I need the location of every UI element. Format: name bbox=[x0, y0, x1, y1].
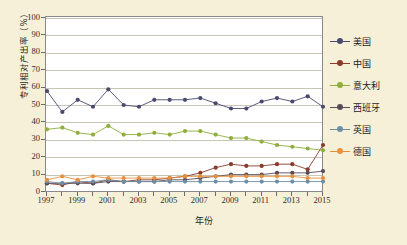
x-axis-title: 年份 bbox=[0, 214, 407, 227]
data-point bbox=[275, 174, 279, 178]
legend-item-美国[interactable]: 美国 bbox=[330, 30, 404, 52]
legend-item-中国[interactable]: 中国 bbox=[330, 52, 404, 74]
data-point bbox=[229, 106, 233, 110]
data-point bbox=[290, 145, 294, 149]
data-point bbox=[152, 98, 156, 102]
legend-swatch-icon bbox=[330, 59, 350, 68]
legend-item-德国[interactable]: 德国 bbox=[330, 140, 404, 162]
data-point bbox=[275, 143, 279, 147]
legend-item-意大利[interactable]: 意大利 bbox=[330, 74, 404, 96]
data-point bbox=[306, 176, 310, 180]
x-tick-label: 2005 bbox=[152, 196, 186, 205]
x-tick-label: 2007 bbox=[182, 196, 216, 205]
legend-swatch-icon bbox=[330, 125, 350, 134]
data-point bbox=[244, 164, 248, 168]
data-point bbox=[183, 129, 187, 133]
x-tick-label: 2009 bbox=[213, 196, 247, 205]
legend-item-label: 西班牙 bbox=[353, 101, 380, 114]
data-point bbox=[229, 136, 233, 140]
y-tick-label: 10 bbox=[8, 169, 40, 178]
legend-swatch-icon bbox=[330, 81, 350, 90]
legend-item-英国[interactable]: 英国 bbox=[330, 118, 404, 140]
legend-item-label: 意大利 bbox=[353, 79, 380, 92]
data-point bbox=[260, 179, 264, 183]
y-tick-mark bbox=[41, 34, 45, 35]
data-point bbox=[76, 178, 80, 182]
y-tick-mark bbox=[41, 69, 45, 70]
data-point bbox=[306, 94, 310, 98]
data-point bbox=[137, 132, 141, 136]
data-point bbox=[168, 132, 172, 136]
legend-item-西班牙[interactable]: 西班牙 bbox=[330, 96, 404, 118]
data-point bbox=[198, 179, 202, 183]
data-point bbox=[244, 106, 248, 110]
data-point bbox=[91, 179, 95, 183]
data-point bbox=[60, 174, 64, 178]
data-point bbox=[260, 139, 264, 143]
data-point bbox=[290, 179, 294, 183]
data-point bbox=[321, 169, 325, 173]
y-tick-mark bbox=[41, 191, 45, 192]
plot-area bbox=[45, 16, 323, 192]
data-point bbox=[260, 99, 264, 103]
data-point bbox=[290, 99, 294, 103]
y-tick-label: 30 bbox=[8, 134, 40, 143]
data-point bbox=[45, 127, 49, 131]
data-point bbox=[60, 110, 64, 114]
series-意大利 bbox=[45, 124, 325, 153]
data-point bbox=[60, 126, 64, 130]
data-point bbox=[152, 176, 156, 180]
data-point bbox=[91, 105, 95, 109]
data-point bbox=[45, 89, 49, 93]
y-tick-label: 0 bbox=[8, 187, 40, 196]
data-point bbox=[321, 148, 325, 152]
data-point bbox=[214, 101, 218, 105]
data-point bbox=[229, 179, 233, 183]
legend-item-label: 美国 bbox=[353, 35, 371, 48]
data-point bbox=[91, 174, 95, 178]
series-美国 bbox=[45, 87, 325, 114]
data-point bbox=[229, 174, 233, 178]
data-point bbox=[275, 96, 279, 100]
x-tick-label: 1997 bbox=[29, 196, 63, 205]
y-tick-mark bbox=[41, 87, 45, 88]
data-point bbox=[106, 87, 110, 91]
x-tick-label: 2001 bbox=[90, 196, 124, 205]
legend-item-label: 英国 bbox=[353, 123, 371, 136]
y-tick-label: 20 bbox=[8, 152, 40, 161]
data-point bbox=[214, 132, 218, 136]
legend-item-label: 中国 bbox=[353, 57, 371, 70]
y-tick-mark bbox=[41, 52, 45, 53]
data-point bbox=[275, 179, 279, 183]
data-point bbox=[60, 181, 64, 185]
data-point bbox=[122, 103, 126, 107]
y-tick-mark bbox=[41, 104, 45, 105]
y-axis-title: 专利相对产出率（%） bbox=[17, 0, 29, 124]
y-tick-mark bbox=[41, 17, 45, 18]
data-point bbox=[244, 174, 248, 178]
data-point bbox=[306, 171, 310, 175]
data-point bbox=[214, 179, 218, 183]
data-point bbox=[45, 178, 49, 182]
data-point bbox=[244, 136, 248, 140]
data-point bbox=[198, 96, 202, 100]
data-point bbox=[321, 143, 325, 147]
data-point bbox=[260, 174, 264, 178]
data-point bbox=[76, 131, 80, 135]
chart-container: 0102030405060708090100 19971999200120032… bbox=[0, 0, 407, 245]
x-tick-label: 1999 bbox=[60, 196, 94, 205]
data-point bbox=[106, 176, 110, 180]
data-point bbox=[290, 174, 294, 178]
data-point bbox=[152, 131, 156, 135]
data-point bbox=[183, 174, 187, 178]
data-point bbox=[306, 146, 310, 150]
data-point bbox=[137, 176, 141, 180]
data-point bbox=[198, 174, 202, 178]
data-point bbox=[229, 162, 233, 166]
data-point bbox=[321, 176, 325, 180]
data-point bbox=[321, 105, 325, 109]
x-tick-label: 2003 bbox=[121, 196, 155, 205]
y-tick-mark bbox=[41, 174, 45, 175]
y-tick-mark bbox=[41, 139, 45, 140]
y-tick-mark bbox=[41, 156, 45, 157]
